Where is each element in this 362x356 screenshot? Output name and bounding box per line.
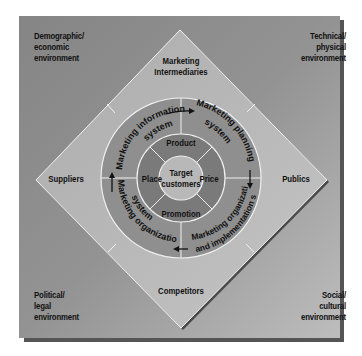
label-line: legal xyxy=(34,300,79,311)
label-line: Political/ xyxy=(34,289,79,300)
label-line: environment xyxy=(290,311,346,322)
label-line: Intermediaries xyxy=(154,66,207,77)
label-line: Social/ xyxy=(290,289,346,300)
diamond-label-intermediaries: Marketing Intermediaries xyxy=(154,55,207,77)
corner-label-technical: Technical/ physical environment xyxy=(290,30,346,63)
corner-label-political: Political/ legal environment xyxy=(34,289,79,322)
label-line: environment xyxy=(290,52,346,63)
label-line: environment xyxy=(34,52,84,63)
label-line: Demographic/ xyxy=(34,30,84,41)
inner-label-place: Place xyxy=(142,173,162,184)
label-line: environment xyxy=(34,311,79,322)
diamond-label-competitors: Competitors xyxy=(158,285,204,296)
label-line: economic xyxy=(34,41,84,52)
diamond-label-suppliers: Suppliers xyxy=(48,173,84,184)
inner-label-price: Price xyxy=(199,173,218,184)
inner-label-promotion: Promotion xyxy=(162,208,201,219)
marketing-environment-diagram: Marketing information system Marketing p… xyxy=(0,0,362,356)
corner-label-social: Social/ cultural environment xyxy=(290,289,346,322)
label-line: Marketing xyxy=(154,55,207,66)
label-line: physical xyxy=(290,41,346,52)
inner-label-product: Product xyxy=(166,137,195,148)
label-line: customers xyxy=(161,178,200,189)
corner-label-demographic: Demographic/ economic environment xyxy=(34,30,84,63)
diamond-label-publics: Publics xyxy=(282,173,310,184)
label-line: cultural xyxy=(290,300,346,311)
center-label-target-customers: Target customers xyxy=(161,167,200,189)
label-line: Target xyxy=(161,167,200,178)
label-line: Technical/ xyxy=(290,30,346,41)
